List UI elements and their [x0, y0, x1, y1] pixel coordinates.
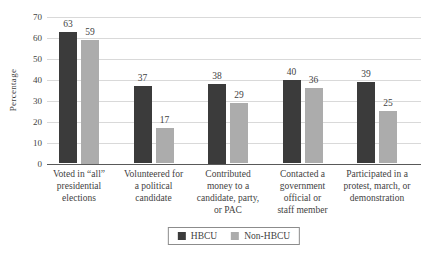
legend-item-non-hbcu: Non-HBCU [231, 231, 290, 241]
bar-non-hbcu-4 [379, 111, 397, 163]
x-axis-line [47, 164, 421, 165]
gridline-50 [47, 59, 421, 60]
category-label-line: Contributed [187, 168, 269, 180]
y-axis-tick-label: 0 [0, 159, 42, 169]
gridline-60 [47, 38, 421, 39]
category-label-0: Voted in “all”presidentialelections [38, 168, 120, 205]
category-label-line: candidate [113, 192, 195, 204]
gridline-70 [47, 17, 421, 18]
legend-swatch-icon [231, 232, 239, 240]
category-label-line: demonstration [336, 192, 418, 204]
legend-label: Non-HBCU [244, 231, 290, 241]
category-label-line: staff member [262, 204, 344, 216]
y-axis-tick-label: 10 [0, 138, 42, 148]
category-label-1: Volunteered fora politicalcandidate [113, 168, 195, 205]
bar-value-label: 37 [128, 72, 158, 84]
category-label-line: protest, march, or [336, 180, 418, 192]
category-label-line: Volunteered for [113, 168, 195, 180]
bar-value-label: 29 [224, 89, 254, 101]
bar-hbcu-0 [59, 32, 77, 164]
category-label-line: presidential [38, 180, 120, 192]
category-label-line: Participated in a [336, 168, 418, 180]
legend-swatch-icon [178, 232, 186, 240]
y-axis-tick-label: 40 [0, 75, 42, 85]
legend-item-hbcu: HBCU [178, 231, 217, 241]
category-label-line: elections [38, 192, 120, 204]
category-label-line: government [262, 180, 344, 192]
category-label-line: candidate, party, [187, 192, 269, 204]
legend: HBCUNon-HBCU [168, 227, 300, 245]
bar-value-label: 38 [202, 70, 232, 82]
bar-hbcu-3 [283, 80, 301, 164]
category-label-line: money to a [187, 180, 269, 192]
bar-value-label: 25 [373, 97, 403, 109]
y-axis-tick-label: 30 [0, 96, 42, 106]
y-axis-tick-label: 20 [0, 117, 42, 127]
category-label-3: Contacted agovernmentofficial orstaff me… [262, 168, 344, 217]
bar-non-hbcu-2 [230, 103, 248, 164]
gridline-40 [47, 80, 421, 81]
bar-non-hbcu-1 [156, 128, 174, 164]
y-axis-tick-label: 50 [0, 54, 42, 64]
bar-value-label: 36 [299, 74, 329, 86]
category-label-2: Contributedmoney to acandidate, party,or… [187, 168, 269, 217]
bar-value-label: 59 [75, 26, 105, 38]
bar-hbcu-4 [357, 82, 375, 164]
bar-value-label: 39 [351, 68, 381, 80]
category-label-line: official or [262, 192, 344, 204]
category-label-4: Participated in aprotest, march, ordemon… [336, 168, 418, 205]
y-axis-tick-label: 60 [0, 33, 42, 43]
bar-value-label: 17 [150, 114, 180, 126]
y-axis-tick-label: 70 [0, 12, 42, 22]
legend-label: HBCU [191, 231, 217, 241]
category-label-line: Voted in “all” [38, 168, 120, 180]
category-label-line: Contacted a [262, 168, 344, 180]
bar-non-hbcu-3 [305, 88, 323, 163]
bar-chart: Percentage HBCUNon-HBCU 0102030405060706… [0, 0, 425, 259]
category-label-line: a political [113, 180, 195, 192]
category-label-line: or PAC [187, 204, 269, 216]
bar-non-hbcu-0 [81, 40, 99, 164]
